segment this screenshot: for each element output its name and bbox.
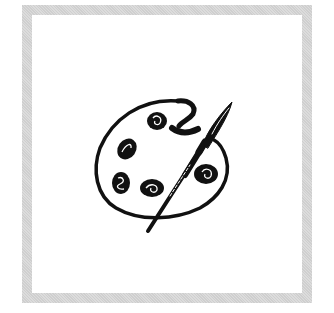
paint-blob-top xyxy=(147,112,167,130)
paint-blob-bottom xyxy=(140,179,164,197)
paint-blob-right xyxy=(194,164,218,184)
paint-blobs xyxy=(112,112,218,197)
palette-icon xyxy=(0,0,334,313)
paint-blob-left xyxy=(113,135,140,163)
